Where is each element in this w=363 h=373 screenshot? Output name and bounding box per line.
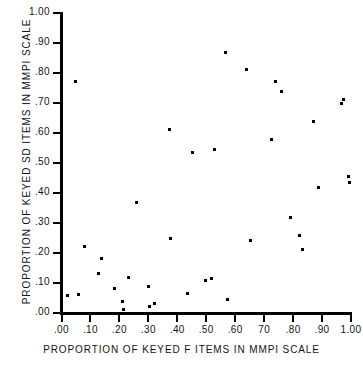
x-tick-mark [205,315,207,322]
data-point [135,201,138,204]
y-tick-label: .80 [16,66,50,77]
x-tick-mark [263,315,265,322]
y-tick-label: 1.00 [16,6,50,17]
data-point [70,312,73,315]
data-point [169,237,172,240]
x-tick-mark [147,315,149,322]
data-point [247,312,250,315]
x-tick-mark [350,315,352,322]
y-tick-mark [53,312,61,314]
data-point [140,312,143,315]
data-point [301,312,304,315]
x-tick-label: 1.00 [334,324,363,335]
data-point [223,312,226,315]
data-point [179,312,182,315]
x-tick-mark [176,315,178,322]
x-tick-mark [89,315,91,322]
data-point [82,312,85,315]
data-point [148,305,151,308]
data-point [122,308,125,311]
data-point [226,312,229,315]
y-tick-mark [53,222,61,224]
data-point [257,312,260,315]
y-tick-label: .40 [16,186,50,197]
y-tick-mark [53,42,61,44]
data-point [198,312,201,315]
y-tick-label: .90 [16,36,50,47]
data-point [212,312,215,315]
data-point [298,234,301,237]
y-tick-label: .70 [16,96,50,107]
data-point [168,128,171,131]
data-point [107,312,110,315]
data-point [66,312,69,315]
y-tick-mark [53,252,61,254]
data-point [191,151,194,154]
data-point [83,245,86,248]
y-tick-label: .50 [16,156,50,167]
data-point [153,302,156,305]
data-point [121,312,124,315]
y-tick-mark [53,102,61,104]
data-point [186,292,189,295]
y-tick-label: .60 [16,126,50,137]
data-point [97,272,100,275]
data-point [111,312,114,315]
data-point [165,312,168,315]
y-tick-label: .10 [16,276,50,287]
data-point [127,276,130,279]
data-point [169,312,172,315]
data-point [301,248,304,251]
data-point [270,138,273,141]
data-point [340,102,343,105]
data-point [194,312,197,315]
y-tick-label: .30 [16,216,50,227]
data-point [154,312,157,315]
y-tick-label: .20 [16,246,50,257]
data-point [92,312,95,315]
data-point [274,80,277,83]
data-point [347,175,350,178]
data-point [289,216,292,219]
data-point [74,80,77,83]
x-tick-mark [61,315,63,322]
data-point [125,312,128,315]
data-point [249,239,252,242]
data-point [60,192,63,195]
data-point [150,312,153,315]
data-point [78,312,81,315]
data-point [312,120,315,123]
data-point [77,293,80,296]
data-point [100,257,103,260]
y-tick-mark [53,12,61,14]
data-point [204,279,207,282]
data-point [348,181,351,184]
data-point [292,312,295,315]
x-tick-mark [292,315,294,322]
x-tick-mark [118,315,120,322]
data-point [250,312,253,315]
data-point [61,312,64,315]
data-point [96,312,99,315]
data-point [245,68,248,71]
y-tick-mark [53,132,61,134]
data-point [208,312,211,315]
data-point [237,312,240,315]
x-tick-mark [234,315,236,322]
y-tick-mark [53,72,61,74]
data-point [342,98,345,101]
data-point [210,277,213,280]
data-point [224,51,227,54]
scatter-plot-figure: PROPORTION OF KEYED SD ITEMS IN MMPI SCA… [0,0,363,373]
data-point [213,148,216,151]
x-axis-title: PROPORTION OF KEYED F ITEMS IN MMPI SCAL… [0,344,363,355]
data-point [183,312,186,315]
data-point [113,287,116,290]
data-point [136,312,139,315]
data-point [66,294,69,297]
y-tick-label: .00 [16,306,50,317]
data-point [317,186,320,189]
x-tick-mark [321,315,323,322]
y-tick-mark [53,162,61,164]
data-point [275,312,278,315]
